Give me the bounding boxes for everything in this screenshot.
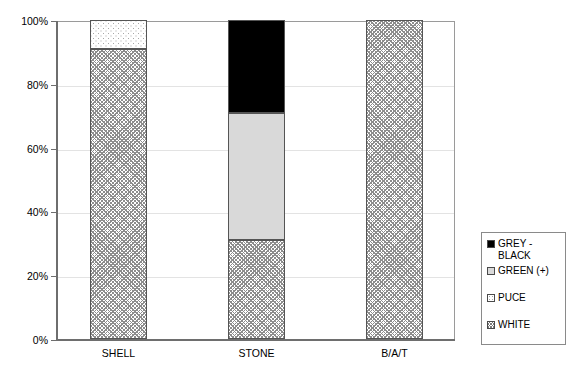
legend-item-puce[interactable]: PUCE	[487, 292, 526, 304]
y-axis-label-40: 40%	[0, 207, 48, 218]
x-axis-label-shell: SHELL	[49, 347, 189, 359]
green-swatch-icon	[487, 267, 495, 275]
bar-segment-bat-white	[366, 20, 423, 339]
grey-black-swatch-icon	[487, 240, 495, 248]
puce-swatch-icon	[487, 294, 495, 302]
bar-stone	[228, 22, 285, 339]
legend-label-puce: PUCE	[498, 292, 526, 304]
bar-segment-stone-green	[228, 113, 285, 241]
legend-label-white: WHITE	[498, 319, 530, 331]
bar-shell	[90, 22, 147, 339]
stacked-bar-chart: 100% 80% 60% 40% 20% 0% SHEL	[0, 0, 582, 375]
y-axis-label-20: 20%	[0, 271, 48, 282]
y-axis-label-100: 100%	[0, 16, 48, 27]
legend-label-green: GREEN (+)	[498, 265, 549, 277]
y-axis-line	[56, 21, 58, 341]
bar-bat	[366, 22, 423, 339]
bar-segment-shell-puce	[90, 20, 147, 49]
y-axis-label-0: 0%	[0, 335, 48, 346]
x-axis-label-bat: B/A/T	[325, 347, 465, 359]
y-axis-label-80: 80%	[0, 80, 48, 91]
plot-area	[57, 21, 455, 340]
bar-segment-stone-grey-black	[228, 20, 285, 113]
x-axis-line	[57, 339, 455, 341]
legend-label-grey-black: GREY - BLACK	[498, 238, 532, 261]
bar-segment-stone-white	[228, 240, 285, 339]
x-axis-label-stone: STONE	[187, 347, 327, 359]
bar-segment-shell-white	[90, 49, 147, 339]
legend: GREY - BLACK GREEN (+) PUCE WHITE	[481, 232, 566, 345]
white-swatch-icon	[487, 321, 495, 329]
legend-item-grey-black[interactable]: GREY - BLACK	[487, 238, 532, 261]
legend-item-green[interactable]: GREEN (+)	[487, 265, 549, 277]
legend-item-white[interactable]: WHITE	[487, 319, 530, 331]
y-axis-label-60: 60%	[0, 144, 48, 155]
